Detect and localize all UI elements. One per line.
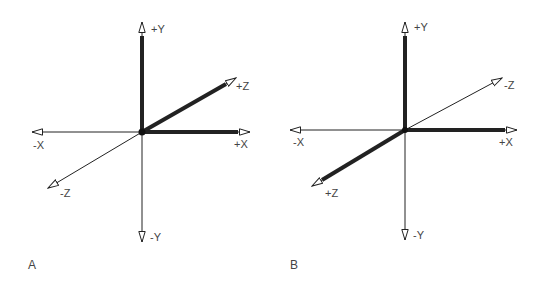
origin-a <box>139 129 146 136</box>
label-pos-y-a: +Y <box>151 24 165 35</box>
label-pos-z-b: +Z <box>325 188 338 199</box>
axis-pos-z-b <box>322 130 405 180</box>
label-neg-y-a: -Y <box>150 232 161 243</box>
axis-neg-z-a <box>48 132 142 188</box>
axis-neg-z-b <box>405 78 502 130</box>
label-pos-x-b: +X <box>499 137 513 148</box>
label-pos-y-b: +Y <box>414 22 428 33</box>
label-neg-y-b: -Y <box>413 230 424 241</box>
label-neg-z-b: -Z <box>504 80 514 91</box>
label-pos-z-a: +Z <box>236 81 249 92</box>
label-neg-x-b: -X <box>293 137 304 148</box>
label-neg-x-a: -X <box>33 140 44 151</box>
label-pos-x-a: +X <box>234 139 248 150</box>
panel-label-b: B <box>290 258 298 272</box>
label-neg-z-a: -Z <box>60 188 70 199</box>
panel-label-a: A <box>28 258 36 272</box>
diagram-a <box>32 22 250 242</box>
origin-b <box>402 127 408 133</box>
diagram-b <box>290 22 517 240</box>
coordinate-diagrams <box>0 0 540 286</box>
axis-pos-z-a <box>142 84 226 132</box>
